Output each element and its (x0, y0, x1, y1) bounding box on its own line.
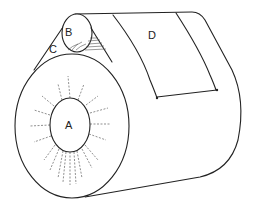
label-b: B (65, 27, 72, 38)
right-tangent (91, 28, 112, 62)
label-c: C (49, 44, 57, 55)
panel-d-right (176, 13, 216, 90)
label-d: D (148, 30, 156, 41)
panel-d-bottom (157, 90, 217, 97)
roll-diagram (0, 0, 257, 208)
label-a: A (65, 120, 72, 131)
